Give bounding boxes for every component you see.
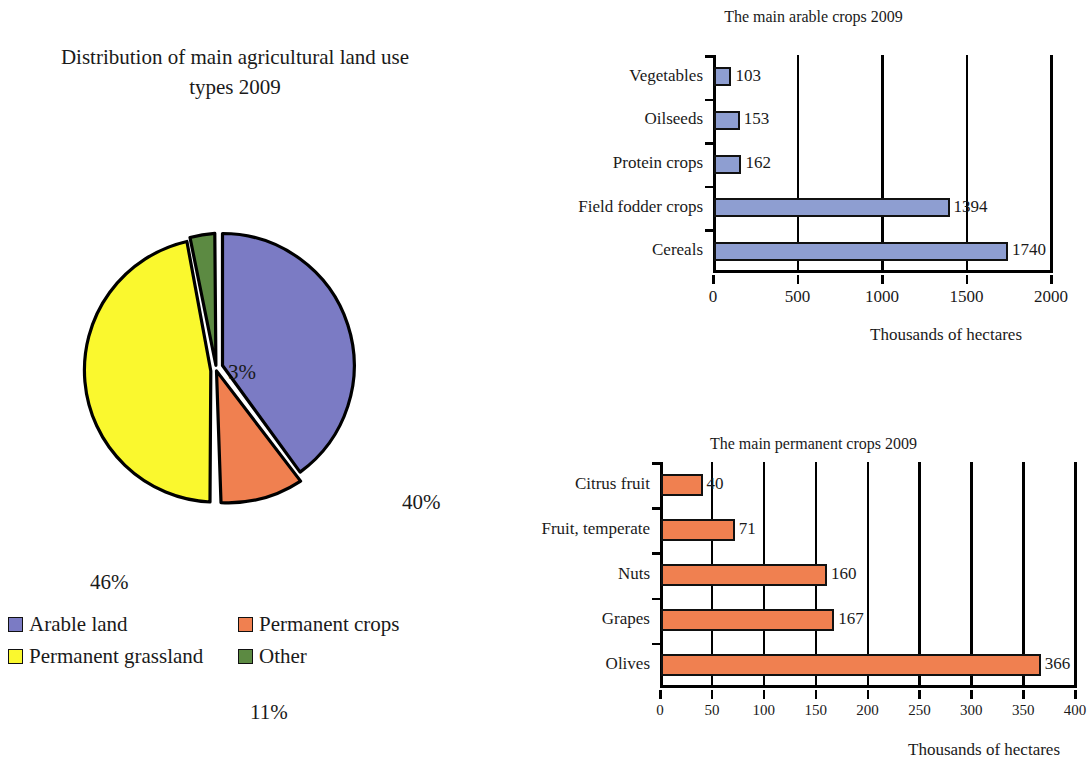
- x-axis-tick: [970, 690, 973, 699]
- x-axis-tick-label: 2000: [1021, 287, 1081, 307]
- pie-legend: Arable land Permanent crops Permanent gr…: [8, 608, 468, 672]
- category-label: Vegetables: [543, 66, 703, 86]
- x-axis-tick: [881, 275, 884, 284]
- gridline: [881, 55, 884, 273]
- bar: [714, 155, 741, 174]
- bar: [661, 564, 827, 586]
- bar-value-label: 153: [744, 109, 770, 129]
- y-axis-tick: [705, 55, 714, 58]
- pie-chart-title-line2: types 2009: [0, 72, 470, 102]
- x-axis-tick-label: 1000: [852, 287, 912, 307]
- y-axis-tick: [705, 99, 714, 102]
- x-axis-tick: [797, 275, 800, 284]
- x-axis-tick-label: 0: [683, 287, 743, 307]
- pie-chart-panel: Distribution of main agricultural land u…: [0, 0, 480, 765]
- permanent-crops-x-axis-caption: Thousands of hectares: [908, 740, 1060, 760]
- pie-slice-permanent-grassland: [84, 242, 210, 503]
- arable-crops-chart-title: The main arable crops 2009: [540, 8, 1087, 26]
- pie-chart-title-line1: Distribution of main agricultural land u…: [0, 42, 470, 72]
- legend-row: Permanent grassland Other: [8, 640, 468, 672]
- x-axis-tick: [1022, 690, 1025, 699]
- y-axis-tick: [652, 462, 661, 465]
- x-axis-tick-label: 500: [768, 287, 828, 307]
- y-axis-tick: [705, 142, 714, 145]
- y-axis-tick: [652, 643, 661, 646]
- permanent-crops-chart: The main permanent crops 2009 0501001502…: [540, 410, 1087, 765]
- y-axis-tick: [705, 186, 714, 189]
- x-axis-tick: [918, 690, 921, 699]
- bar: [714, 111, 740, 130]
- bar: [714, 242, 1008, 261]
- x-axis-tick: [966, 275, 969, 284]
- category-label: Oilseeds: [543, 109, 703, 129]
- legend-item-permanent-crops: Permanent crops: [238, 614, 400, 635]
- gridline: [966, 55, 969, 273]
- legend-label-arable-land: Arable land: [29, 614, 128, 635]
- legend-swatch-other-icon: [238, 649, 253, 664]
- x-axis-tick: [867, 690, 870, 699]
- y-axis-tick: [652, 507, 661, 510]
- y-axis-tick: [652, 598, 661, 601]
- x-axis-tick-label: 400: [1045, 702, 1087, 719]
- bar-value-label: 1394: [954, 197, 988, 217]
- category-label: Protein crops: [543, 153, 703, 173]
- pie-chart-graphic: 3% 40% 46% 11%: [50, 200, 410, 530]
- x-axis-tick: [712, 275, 715, 284]
- bar: [661, 519, 735, 541]
- x-axis-tick: [815, 690, 818, 699]
- gridline: [1074, 462, 1077, 688]
- pie-label-permanent-grassland: 46%: [90, 570, 129, 595]
- legend-item-arable-land: Arable land: [8, 614, 238, 635]
- y-axis-tick: [705, 229, 714, 232]
- category-label: Olives: [535, 654, 650, 674]
- legend-label-other: Other: [259, 646, 307, 667]
- bar: [661, 474, 703, 496]
- permanent-crops-plot-area: 050100150200250300350400366Olives167Grap…: [660, 462, 1075, 688]
- bar-value-label: 1740: [1012, 240, 1046, 260]
- x-axis-tick-label: 1500: [937, 287, 997, 307]
- bar: [714, 67, 731, 86]
- gridline: [1050, 55, 1053, 273]
- bar: [661, 609, 834, 631]
- permanent-crops-chart-title: The main permanent crops 2009: [540, 435, 1087, 453]
- legend-row: Arable land Permanent crops: [8, 608, 468, 640]
- bar-value-label: 162: [745, 153, 771, 173]
- bar-value-label: 40: [707, 474, 724, 494]
- pie-chart-title: Distribution of main agricultural land u…: [0, 42, 470, 102]
- legend-swatch-permanent-crops-icon: [238, 617, 253, 632]
- x-axis-tick: [1074, 690, 1077, 699]
- pie-label-arable-land: 40%: [402, 490, 441, 515]
- category-label: Cereals: [543, 240, 703, 260]
- category-label: Grapes: [535, 609, 650, 629]
- x-axis-tick: [711, 690, 714, 699]
- legend-label-permanent-grassland: Permanent grassland: [29, 646, 203, 667]
- x-axis-tick: [763, 690, 766, 699]
- bar-value-label: 160: [831, 564, 857, 584]
- pie-label-permanent-crops: 11%: [250, 700, 288, 725]
- legend-label-permanent-crops: Permanent crops: [259, 614, 400, 635]
- bar-value-label: 103: [735, 66, 761, 86]
- category-label: Fruit, temperate: [535, 519, 650, 539]
- bar-value-label: 71: [739, 519, 756, 539]
- legend-swatch-arable-land-icon: [8, 617, 23, 632]
- legend-item-permanent-grassland: Permanent grassland: [8, 646, 238, 667]
- y-axis-tick: [652, 552, 661, 555]
- arable-crops-chart: The main arable crops 2009 0500100015002…: [540, 0, 1087, 380]
- gridline: [797, 55, 800, 273]
- category-label: Nuts: [535, 564, 650, 584]
- arable-crops-x-axis-caption: Thousands of hectares: [870, 325, 1022, 345]
- legend-swatch-permanent-grassland-icon: [8, 649, 23, 664]
- bar: [661, 654, 1041, 676]
- arable-crops-plot-area: 05001000150020001740Cereals1394Field fod…: [713, 55, 1051, 273]
- x-axis-tick: [659, 690, 662, 699]
- legend-item-other: Other: [238, 646, 307, 667]
- bar: [714, 198, 950, 217]
- category-label: Field fodder crops: [543, 197, 703, 217]
- pie-label-other: 3%: [228, 360, 256, 385]
- bar-value-label: 366: [1045, 654, 1071, 674]
- category-label: Citrus fruit: [535, 474, 650, 494]
- bar-value-label: 167: [838, 609, 864, 629]
- x-axis-tick: [1050, 275, 1053, 284]
